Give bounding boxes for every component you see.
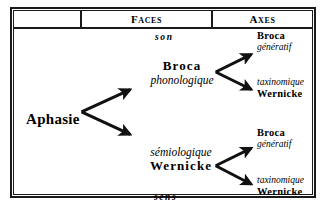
node-axis-4-bold: Wernicke (257, 186, 304, 198)
header-cell-empty (14, 11, 80, 27)
node-axis-2-bold: Wernicke (257, 88, 304, 100)
node-axis-taxinomique-wernicke-top: taxinomique Wernicke (257, 77, 304, 99)
diagram-body: Aphasie son Broca phonologique sémiologi… (14, 29, 312, 194)
node-axis-4-italic: taxinomique (257, 175, 304, 186)
node-axis-broca-generatif-top: Broca génératif (257, 30, 291, 52)
node-axis-1-italic: génératif (257, 42, 291, 53)
node-broca-phonologique-main: Broca (139, 59, 225, 73)
node-axis-3-bold: Broca (257, 127, 291, 139)
node-aphasie: Aphasie (26, 112, 80, 128)
arrow-aphasie-to-wernicke-face (82, 112, 131, 134)
header-cell-faces: Faces (80, 11, 213, 27)
node-wernicke-semiologique-sub: sémiologique (137, 146, 225, 158)
node-axis-broca-generatif-bottom: Broca génératif (257, 127, 291, 149)
table-header-row: Faces Axes (14, 11, 312, 29)
node-axis-2-italic: taxinomique (257, 77, 304, 88)
figure-inner-frame: Faces Axes (13, 10, 313, 195)
figure-frame: Faces Axes (10, 7, 316, 198)
node-axis-taxinomique-wernicke-bottom: taxinomique Wernicke (257, 175, 304, 197)
label-sens: sens (154, 193, 177, 203)
node-axis-3-italic: génératif (257, 139, 291, 150)
header-cell-axes: Axes (213, 11, 312, 27)
node-wernicke-semiologique: sémiologique Wernicke (137, 146, 225, 173)
node-axis-1-bold: Broca (257, 30, 291, 42)
node-broca-phonologique: Broca phonologique (139, 59, 225, 86)
arrow-aphasie-to-broca-face (82, 90, 131, 112)
label-son: son (155, 33, 174, 43)
node-broca-phonologique-sub: phonologique (139, 74, 225, 86)
node-wernicke-semiologique-main: Wernicke (137, 159, 225, 173)
